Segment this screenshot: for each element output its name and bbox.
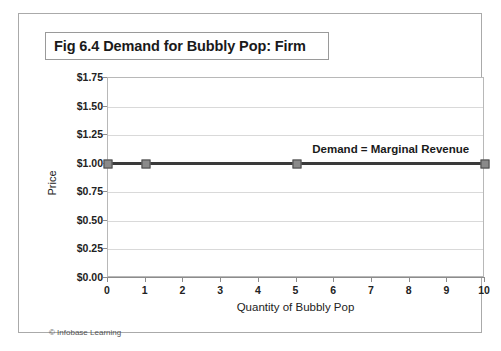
copyright-footer: © Infobase Learning xyxy=(49,328,121,337)
x-axis-tick-label: 5 xyxy=(293,284,299,296)
series-data-point xyxy=(481,159,490,168)
gridline xyxy=(108,192,483,193)
chart-area: Price $0.00$0.25$0.50$0.75$1.00$1.25$1.5… xyxy=(45,69,493,319)
x-axis-tick-mark xyxy=(333,277,334,282)
series-data-point xyxy=(141,159,150,168)
series-annotation-label: Demand = Marginal Revenue xyxy=(312,143,469,155)
x-axis-tick-label: 4 xyxy=(255,284,261,296)
y-axis-tick-label: $0.00 xyxy=(47,271,103,283)
gridline xyxy=(108,249,483,250)
series-data-point xyxy=(292,159,301,168)
x-axis-tick-label: 8 xyxy=(406,284,412,296)
y-axis-tick-label: $1.25 xyxy=(47,128,103,140)
x-axis-tick-mark xyxy=(220,277,221,282)
x-axis-tick-mark xyxy=(107,277,108,282)
figure-title: Fig 6.4 Demand for Bubbly Pop: Firm xyxy=(46,38,306,54)
x-axis-tick-label: 2 xyxy=(179,284,185,296)
x-axis-tick-mark xyxy=(409,277,410,282)
x-axis-tick-label: 0 xyxy=(104,284,110,296)
x-axis-tick-label: 1 xyxy=(142,284,148,296)
figure-title-box: Fig 6.4 Demand for Bubbly Pop: Firm xyxy=(45,32,329,60)
x-axis-title: Quantity of Bubbly Pop xyxy=(107,301,484,313)
x-axis-tick-mark xyxy=(484,277,485,282)
y-axis-tick-label: $1.00 xyxy=(47,157,103,169)
y-axis-ticks: $0.00$0.25$0.50$0.75$1.00$1.25$1.50$1.75 xyxy=(45,77,103,277)
y-axis-tick-label: $0.25 xyxy=(47,242,103,254)
gridline xyxy=(108,135,483,136)
figure-frame: Fig 6.4 Demand for Bubbly Pop: Firm Pric… xyxy=(18,13,482,333)
x-axis-tick-mark xyxy=(446,277,447,282)
y-axis-tick-label: $0.75 xyxy=(47,185,103,197)
x-axis-tick-label: 10 xyxy=(478,284,490,296)
x-axis-tick-label: 3 xyxy=(217,284,223,296)
x-axis-tick-mark xyxy=(258,277,259,282)
x-axis-tick-label: 7 xyxy=(368,284,374,296)
x-axis-tick-mark xyxy=(145,277,146,282)
gridline xyxy=(108,221,483,222)
series-data-point xyxy=(104,159,113,168)
x-axis-tick-mark xyxy=(182,277,183,282)
x-axis-tick-label: 9 xyxy=(443,284,449,296)
plot-area: Demand = Marginal Revenue xyxy=(107,77,484,277)
y-axis-tick-label: $1.75 xyxy=(47,71,103,83)
x-axis-tick-mark xyxy=(371,277,372,282)
x-axis-tick-label: 6 xyxy=(330,284,336,296)
x-axis-tick-mark xyxy=(296,277,297,282)
y-axis-tick-label: $1.50 xyxy=(47,100,103,112)
gridline xyxy=(108,107,483,108)
y-axis-tick-label: $0.50 xyxy=(47,214,103,226)
